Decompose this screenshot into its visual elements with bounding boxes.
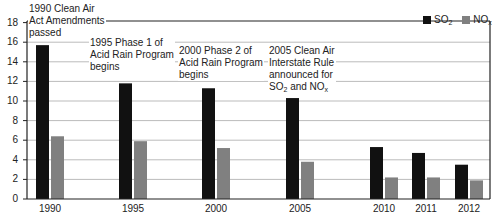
annotation-line: 1990 Clean Air <box>29 3 105 15</box>
annotation-line: Acid Rain Program <box>90 49 174 61</box>
y-tick-label: 4 <box>0 155 18 165</box>
x-tick-label: 1995 <box>113 203 153 214</box>
annotation-line: Acid Rain Program <box>179 57 263 69</box>
annotation-line: 2005 Clean Air <box>269 45 335 57</box>
annotation-2005: 2005 Clean Air Interstate Rule announced… <box>268 45 336 93</box>
legend: SO2 NOx <box>423 14 492 25</box>
legend-label: NOx <box>473 14 492 25</box>
bar-so2-2011 <box>412 153 425 199</box>
y-tick-label: 2 <box>0 174 18 184</box>
bar-nox-2010 <box>385 177 398 199</box>
y-tick-label: 18 <box>0 18 18 28</box>
annotation-line: 2000 Phase 2 of <box>179 45 263 57</box>
nox-swatch <box>462 16 470 24</box>
y-tick-label: 16 <box>0 37 18 47</box>
bar-nox-2000 <box>217 148 230 199</box>
legend-item-nox: NOx <box>462 14 492 25</box>
annotation-line: 1995 Phase 1 of <box>90 37 174 49</box>
x-tick-label: 2011 <box>406 203 446 214</box>
x-tick-label: 2012 <box>449 203 489 214</box>
bar-so2-1990 <box>36 45 49 199</box>
so2-swatch <box>423 16 431 24</box>
annotation-2000: 2000 Phase 2 of Acid Rain Program begins <box>178 45 264 81</box>
annotation-line: Act Amendments <box>29 15 105 27</box>
x-tick-label: 2005 <box>280 203 320 214</box>
bar-so2-2005 <box>286 98 299 199</box>
bar-nox-2012 <box>470 180 483 199</box>
annotation-1995: 1995 Phase 1 of Acid Rain Program begins <box>89 37 175 73</box>
bar-nox-1995 <box>134 141 147 199</box>
y-tick-label: 6 <box>0 135 18 145</box>
y-tick-label: 0 <box>0 194 18 204</box>
y-tick-label: 10 <box>0 96 18 106</box>
bar-nox-2011 <box>427 177 440 199</box>
annotation-line: announced for <box>269 69 335 81</box>
annotation-line: Interstate Rule <box>269 57 335 69</box>
bar-so2-2000 <box>202 88 215 199</box>
bar-nox-2005 <box>301 162 314 199</box>
annotation-1990: 1990 Clean Air Act Amendments passed <box>28 3 106 39</box>
legend-item-so2: SO2 <box>423 14 452 25</box>
x-tick-label: 2000 <box>196 203 236 214</box>
annotation-line: begins <box>179 69 263 81</box>
y-tick-label: 14 <box>0 57 18 67</box>
bar-nox-1990 <box>51 136 64 199</box>
y-tick-label: 8 <box>0 116 18 126</box>
y-tick-label: 12 <box>0 76 18 86</box>
x-tick-label: 1990 <box>30 203 70 214</box>
bar-so2-2010 <box>370 147 383 199</box>
annotation-line: begins <box>90 61 174 73</box>
bar-so2-2012 <box>455 165 468 199</box>
bar-so2-1995 <box>119 83 132 199</box>
x-tick-label: 2010 <box>364 203 404 214</box>
legend-label: SO2 <box>434 14 452 25</box>
annotation-line: SO2 and NOx <box>269 81 335 93</box>
